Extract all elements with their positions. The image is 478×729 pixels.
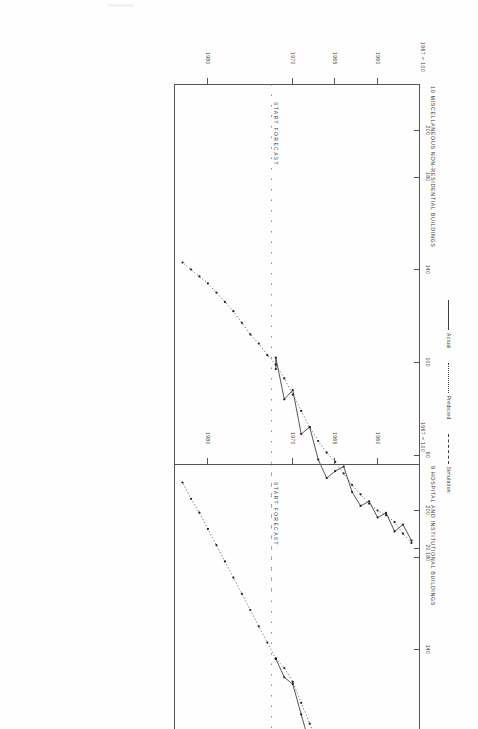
x-axis-tick-label: 1980 [205, 52, 211, 65]
y-axis-tick-label: 140 [425, 265, 431, 275]
series-line-simulation [183, 263, 276, 365]
data-point [249, 609, 251, 611]
y-axis-tick-label: 180 [425, 172, 431, 182]
data-point [275, 363, 277, 365]
x-axis-tick [377, 78, 378, 84]
series-layer [174, 464, 420, 729]
data-point [258, 625, 260, 627]
data-point [266, 354, 268, 356]
y-axis-tick-label: 180 [425, 552, 431, 562]
data-point [232, 310, 234, 312]
data-point [190, 268, 192, 270]
start-forecast-label: START FORECAST [273, 102, 279, 166]
series-line-predicted [276, 659, 412, 729]
chart-title: 9 HOSPITAL AND INSTITUTIONAL BUILDINGS [430, 466, 436, 606]
legend-label: Predicted [446, 396, 452, 420]
y-axis-tick-label: 140 [425, 645, 431, 655]
data-point [309, 723, 311, 725]
data-point [215, 292, 217, 294]
data-point [181, 261, 183, 263]
x-axis-tick [207, 78, 208, 84]
x-axis-tick-label: 1970 [290, 432, 296, 445]
data-point [275, 368, 277, 370]
data-point [207, 528, 209, 530]
legend-item-actual: Actual [446, 300, 452, 349]
data-point [283, 377, 285, 379]
x-axis-tick-label: 1965 [332, 432, 338, 445]
y-axis-tick-label: 200 [425, 506, 431, 516]
x-axis-tick [377, 458, 378, 464]
data-point [300, 713, 302, 715]
data-point [283, 398, 285, 400]
data-point [198, 512, 200, 514]
data-point [232, 577, 234, 579]
data-point [283, 676, 285, 678]
y-axis-tick-label: 100 [425, 357, 431, 367]
legend-swatch-dotted-icon [449, 363, 450, 393]
x-axis-tick [207, 458, 208, 464]
x-axis-tick [292, 78, 293, 84]
scan-artifact [108, 4, 134, 7]
x-axis-tick-label: 1960 [375, 432, 381, 445]
x-axis-tick-label: 1980 [205, 432, 211, 445]
x-axis-tick [334, 458, 335, 464]
x-axis-tick [292, 458, 293, 464]
x-axis-tick-label: 1965 [332, 52, 338, 65]
data-point [241, 593, 243, 595]
chart-hospital-and-institutional-buildings: 9 HOSPITAL AND INSTITUTIONAL BUILDINGS 1… [140, 404, 440, 729]
x-axis-tick-label: 1960 [375, 52, 381, 65]
units-label: 1967 = 100 [420, 42, 426, 72]
data-point [190, 498, 192, 500]
data-point [266, 641, 268, 643]
chart-legend: Actual Predicted Simulation [436, 300, 452, 440]
data-point [198, 275, 200, 277]
data-point [300, 702, 302, 704]
legend-swatch-solid-icon [449, 300, 450, 330]
data-point [215, 544, 217, 546]
data-point [224, 560, 226, 562]
data-point [283, 667, 285, 669]
x-axis-tick [334, 78, 335, 84]
data-point [258, 343, 260, 345]
y-axis-tick [414, 557, 420, 558]
units-label: 1967 = 100 [420, 422, 426, 452]
data-point [207, 282, 209, 284]
data-point [181, 481, 183, 483]
y-axis-tick [414, 510, 420, 511]
x-axis-tick-label: 1970 [290, 52, 296, 65]
data-point [275, 658, 277, 660]
data-point [249, 333, 251, 335]
scanned-page: 10 MISCELLANEOUS NON-RESIDENTIAL BUILDIN… [0, 0, 478, 729]
legend-item-simulation: Simulation [446, 434, 452, 493]
y-axis-tick [414, 269, 420, 270]
data-point [241, 322, 243, 324]
y-axis-tick-label: 200 [425, 126, 431, 136]
legend-swatch-dashed-icon [449, 434, 450, 464]
y-axis-tick [414, 649, 420, 650]
data-point [275, 356, 277, 358]
data-point [224, 301, 226, 303]
data-point [292, 394, 294, 396]
series-line-actual [276, 659, 412, 729]
y-axis-tick [414, 130, 420, 131]
data-point [292, 681, 294, 683]
legend-label: Simulation [446, 467, 452, 493]
start-forecast-label: START FORECAST [273, 482, 279, 546]
y-axis-tick [414, 177, 420, 178]
y-axis-tick [414, 362, 420, 363]
legend-items: Actual Predicted Simulation [446, 300, 452, 440]
legend-label: Actual [446, 333, 452, 349]
chart-title: 10 MISCELLANEOUS NON-RESIDENTIAL BUILDIN… [430, 86, 436, 248]
data-point [292, 389, 294, 391]
series-line-simulation [183, 483, 276, 659]
legend-item-predicted: Predicted [446, 363, 452, 420]
